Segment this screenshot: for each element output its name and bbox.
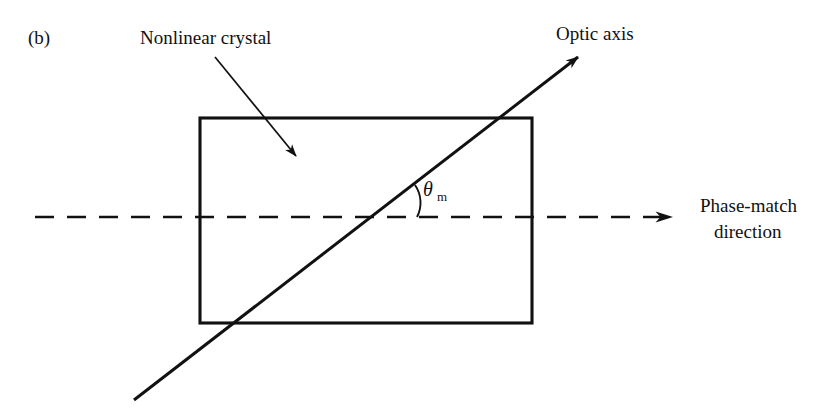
theta-m-subscript: m: [437, 189, 447, 204]
theta-m-angle-arc: [415, 185, 421, 217]
theta-m-symbol: θ: [423, 178, 433, 200]
figure-container: (b) Nonlinear crystal Optic axis Phase-m…: [0, 0, 835, 420]
nonlinear-crystal-leader-arrow: [215, 57, 296, 156]
optic-axis-label: Optic axis: [556, 23, 634, 44]
phase-match-direction-label-line2: direction: [714, 221, 782, 242]
panel-label: (b): [28, 27, 50, 49]
phase-match-direction-label-line1: Phase-match: [700, 195, 798, 216]
phase-matching-diagram: (b) Nonlinear crystal Optic axis Phase-m…: [0, 0, 835, 420]
nonlinear-crystal-label: Nonlinear crystal: [140, 27, 271, 48]
